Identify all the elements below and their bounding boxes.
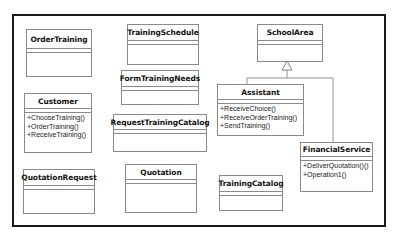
class-name: QuotationRequest (24, 170, 94, 186)
class-request-training-catalog[interactable]: RequestTrainingCatalog (113, 114, 207, 152)
operation: +ReceiveOrderTraining() (220, 114, 303, 123)
class-name: Quotation (126, 165, 196, 180)
operation: +Operation1() (303, 171, 372, 180)
operation: +ReceiveChoice() (220, 105, 303, 114)
class-training-catalog[interactable]: TrainingCatalog (219, 175, 283, 211)
class-name: RequestTrainingCatalog (114, 115, 206, 130)
attributes-compartment (126, 180, 196, 184)
attributes-compartment (128, 41, 198, 45)
inheritance-triangle-icon (282, 61, 292, 70)
class-name: FormTrainingNeeds (122, 71, 198, 87)
operation: +ReceiveTraining() (27, 131, 91, 140)
class-name: FinancialService (301, 143, 372, 157)
class-name: Assistant (218, 85, 303, 100)
class-quotation[interactable]: Quotation (125, 164, 197, 213)
operations-compartment: +ChooseTraining() +OrderTraining() +Rece… (25, 113, 91, 140)
attributes-compartment (27, 49, 91, 53)
attributes-compartment (220, 192, 282, 196)
operations-compartment: +ReceiveChoice() +ReceiveOrderTraining()… (218, 104, 303, 131)
operation: +SendTraining() (220, 122, 303, 131)
operation: +DeliverQuotation()() (303, 162, 372, 171)
class-name: Customer (25, 94, 91, 109)
operation: +OrderTraining() (27, 123, 91, 132)
attributes-compartment (122, 87, 198, 91)
class-order-training[interactable]: OrderTraining (26, 29, 92, 77)
class-name: TrainingSchedule (128, 25, 198, 41)
class-school-area[interactable]: SchoolArea (257, 24, 323, 62)
class-form-training-needs[interactable]: FormTrainingNeeds (121, 70, 199, 105)
operation: +ChooseTraining() (27, 114, 91, 123)
class-assistant[interactable]: Assistant +ReceiveChoice() +ReceiveOrder… (217, 84, 304, 136)
attributes-compartment (258, 41, 322, 45)
class-name: SchoolArea (258, 25, 322, 41)
class-financial-service[interactable]: FinancialService +DeliverQuotation()() +… (300, 142, 373, 192)
operations-compartment: +DeliverQuotation()() +Operation1() (301, 161, 372, 179)
class-training-schedule[interactable]: TrainingSchedule (127, 24, 199, 65)
class-customer[interactable]: Customer +ChooseTraining() +OrderTrainin… (24, 93, 92, 153)
attributes-compartment (114, 130, 206, 134)
class-name: TrainingCatalog (220, 176, 282, 192)
class-quotation-request[interactable]: QuotationRequest (23, 169, 95, 214)
attributes-compartment (24, 186, 94, 190)
class-name: OrderTraining (27, 30, 91, 49)
